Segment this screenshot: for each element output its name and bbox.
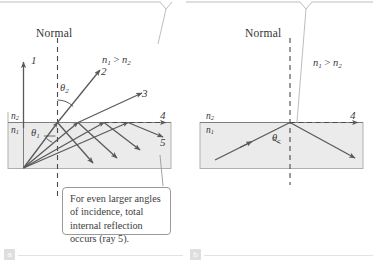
panel-b-index-lower-sub: 1 (211, 128, 214, 135)
panel-b-normal-label: Normal (245, 28, 281, 40)
panel-b-thetac-label: θc (272, 133, 280, 145)
panel-b-index-lower: n1 (206, 126, 214, 136)
panel-b-ineq-tail-sub: 2 (338, 62, 342, 70)
panel-a-theta1-label: θ1 (31, 128, 40, 140)
panel-a-ray-label-5: 5 (160, 137, 166, 148)
panel-a-ray-label-3: 3 (142, 88, 148, 99)
panel-b-ray-label-4: 4 (350, 110, 356, 121)
panel-b-top-callout-line (297, 9, 306, 122)
panel-a-callout-box: For even larger angles of incidence, tot… (62, 187, 171, 235)
panel-b-thetac-sub: c (277, 137, 280, 145)
panel-a-ray-label-1: 1 (31, 55, 37, 66)
panel-tag-a: a (4, 249, 15, 260)
panel-a-ray-label-4: 4 (160, 110, 166, 121)
panel-a-theta1-sub: 1 (36, 132, 40, 140)
panel-a-ineq-mid: > (111, 54, 122, 65)
panel-b-ineq-mid: > (322, 57, 333, 68)
panel-a-index-lower: n1 (11, 126, 19, 136)
panel-a-refracted-ray-3 (78, 93, 142, 123)
panel-b-index-upper: n2 (206, 112, 214, 122)
panel-b-index-inequality: n1 > n2 (313, 58, 342, 70)
panel-a-index-upper: n2 (11, 112, 19, 122)
panel-a-ray-label-2: 2 (101, 66, 107, 77)
panel-a-top-callout-line (158, 9, 166, 44)
panel-a-ineq-tail-sub: 2 (127, 59, 131, 67)
panel-a-index-lower-sub: 1 (16, 128, 19, 135)
panel-a-top-callout-tail (160, 2, 172, 9)
panel-a-theta2-sub: 2 (65, 87, 69, 95)
panel-b-top-callout-tail (300, 2, 312, 9)
panel-tag-b: b (190, 249, 201, 260)
panel-a-group (0, 2, 172, 200)
panel-a-theta2-label: θ2 (60, 83, 69, 95)
panel-a-index-inequality: n1 > n2 (102, 55, 131, 67)
physics-ray-diagram-figure: Normal 1 2 3 4 5 n2 n1 n1 > n2 θ2 θ1 For… (0, 0, 373, 262)
panel-b-index-upper-sub: 2 (211, 114, 214, 121)
panel-b-rule (204, 255, 373, 256)
panel-a-normal-label: Normal (36, 28, 72, 40)
panel-a-rule (18, 255, 183, 256)
panel-a-index-upper-sub: 2 (16, 114, 19, 121)
panel-b-slab (200, 123, 363, 169)
